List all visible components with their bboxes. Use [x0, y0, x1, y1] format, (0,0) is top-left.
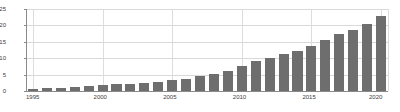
y-tick-label: 20: [0, 22, 6, 28]
y-axis-line: [26, 9, 27, 92]
y-tick-label: 0: [3, 88, 6, 94]
bar: [195, 76, 205, 91]
y-tick-label: 5: [3, 72, 6, 78]
x-tick-label: 2005: [163, 94, 176, 100]
bar: [251, 61, 261, 91]
bar: [181, 79, 191, 91]
bar: [292, 51, 302, 91]
y-tick-mark: [24, 58, 26, 59]
x-tick-label: 2020: [369, 94, 382, 100]
bar: [125, 84, 135, 91]
bar: [334, 34, 344, 91]
bar: [279, 54, 289, 91]
bar: [306, 46, 316, 91]
x-axis-line: [26, 91, 388, 92]
bar: [223, 71, 233, 91]
bar: [139, 83, 149, 91]
x-tick-label: 2015: [302, 94, 315, 100]
y-tick-mark: [24, 25, 26, 26]
bar: [265, 58, 275, 91]
bar: [209, 74, 219, 91]
y-tick-label: 25: [0, 6, 6, 12]
bar: [167, 80, 177, 91]
bar: [348, 30, 358, 91]
y-tick-mark: [24, 9, 26, 10]
plot-right-border: [388, 9, 389, 92]
bar: [376, 16, 386, 91]
y-tick-mark: [24, 75, 26, 76]
bar-chart: 0510152025 199520002005201020152020: [0, 0, 400, 112]
bar: [111, 84, 121, 91]
bar: [153, 82, 163, 91]
y-tick-mark: [24, 42, 26, 43]
x-tick-label: 2000: [94, 94, 107, 100]
bar: [320, 40, 330, 91]
y-tick-mark: [24, 91, 26, 92]
y-tick-label: 15: [0, 39, 6, 45]
x-tick-label: 1995: [26, 94, 39, 100]
x-tick-label: 2010: [233, 94, 246, 100]
bars-layer: [26, 9, 388, 92]
bar: [362, 24, 372, 91]
y-tick-label: 10: [0, 55, 6, 61]
bar: [237, 66, 247, 91]
